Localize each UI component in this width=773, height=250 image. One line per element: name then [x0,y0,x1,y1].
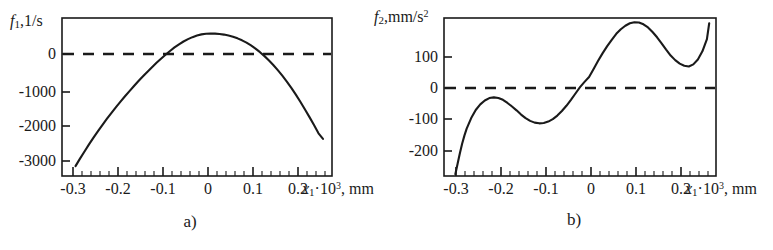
panel-a-ytick-3: -3000 [4,152,56,170]
panel-a-ytick-1: -1000 [4,83,56,101]
panel-a-ytick-2: -2000 [4,117,56,135]
panel-a-caption: a) [150,212,230,232]
panel-a-x-major-ticks [73,167,298,176]
panel-a-y-axis-label: f1,1/s [10,12,43,30]
panel-b-x-axis-label: x1·103, mm [685,180,757,198]
panel-b-xtick-1: -0.2 [478,180,524,198]
panel-b-y-major-ticks [444,57,452,151]
panel-b-xtick-2: -0.1 [523,180,569,198]
panel-a-xtick-0: -0.3 [50,180,96,198]
panel-a-ytick-0: 0 [4,45,56,63]
panel-b-ytick-1: 0 [388,79,438,97]
panel-b-ytick-2: -100 [388,110,438,128]
panel-b-xtick-4: 0.1 [613,180,659,198]
panel-b-xtick-3: 0 [568,180,614,198]
panel-a: f1,1/s 0 -1000 -2000 -3000 [0,0,386,250]
panel-b-x-major-ticks [456,167,681,176]
panel-a-xtick-2: -0.1 [140,180,186,198]
panel-a-xtick-3: 0 [185,180,231,198]
figure-container: f1,1/s 0 -1000 -2000 -3000 [0,0,773,250]
panel-b-ytick-3: -200 [388,142,438,160]
panel-b: f2,mm/s2 100 0 -100 -200 [386,0,772,250]
panel-a-y-major-ticks [62,54,70,161]
panel-a-x-axis-label: x1·103, mm [302,180,374,198]
panel-b-y-axis-label: f2,mm/s2 [374,8,429,26]
panel-b-xtick-0: -0.3 [433,180,479,198]
panel-a-xtick-4: 0.1 [230,180,276,198]
panel-a-plot-frame [62,18,332,176]
panel-b-caption: b) [534,210,614,230]
panel-b-curve-f2 [455,22,709,174]
panel-b-plot-frame [444,18,716,176]
panel-a-xtick-1: -0.2 [95,180,141,198]
panel-b-ytick-0: 100 [388,48,438,66]
